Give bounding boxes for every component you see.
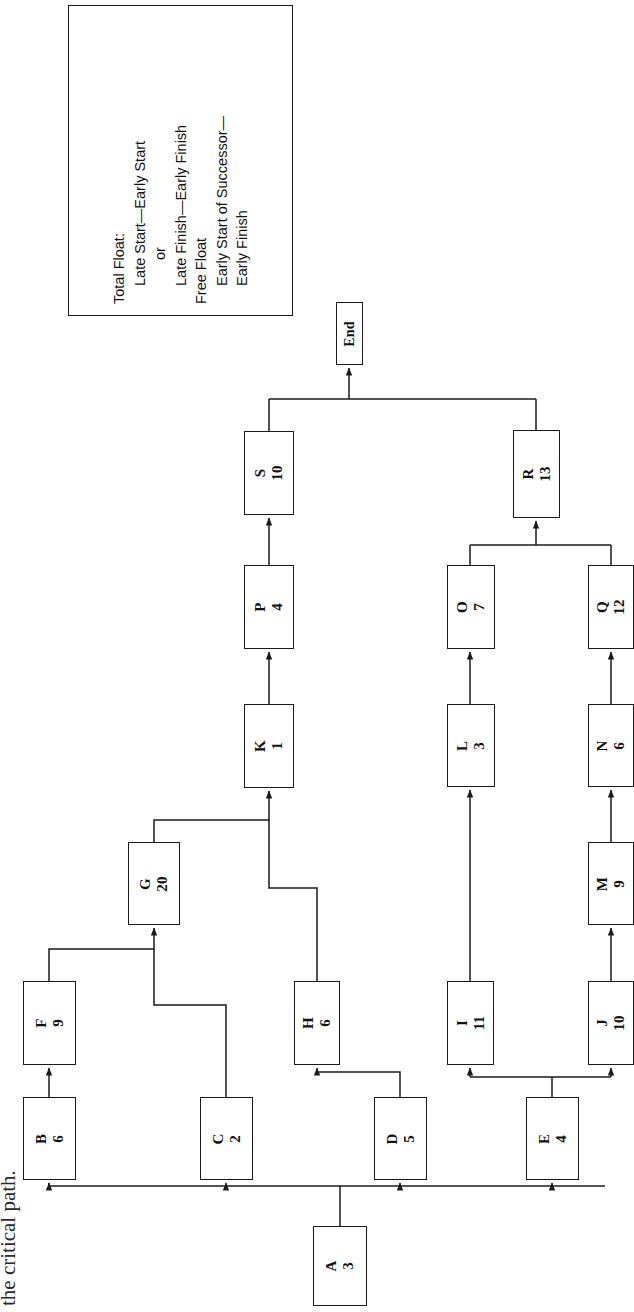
node-e-id: E [536,1133,553,1143]
node-j-inner: J10 [594,1015,628,1030]
node-r-inner: R13 [520,466,554,481]
legend-total-float-formula-2: Late Finish—Early Finish [170,18,191,304]
node-b-id: B [33,1133,50,1143]
page-caption: the critical path. [0,1170,21,1306]
node-i-inner: I11 [454,1016,488,1031]
node-m-duration: 9 [611,880,628,888]
node-q-duration: 12 [611,599,628,614]
node-s[interactable]: S10 [244,431,294,515]
node-c-inner: C2 [210,1133,244,1144]
node-n[interactable]: N6 [588,704,634,787]
node-i-id: I [454,1020,471,1026]
node-h-inner: H6 [300,1017,334,1029]
node-p[interactable]: P4 [244,565,294,649]
edge-g-to-k [154,791,269,842]
legend-text: Total Float: Late Start—Early Start or L… [108,18,252,304]
node-a-inner: A3 [323,1260,357,1271]
edge-c-to-g [154,949,226,1097]
node-end[interactable]: End [336,302,363,365]
node-n-id: N [594,740,611,751]
node-j[interactable]: J10 [588,981,634,1065]
node-j-id: J [594,1019,611,1027]
page-caption-text: the critical path. [0,1170,20,1306]
legend-free-float-label: Free Float [191,18,212,304]
node-k[interactable]: K1 [244,704,294,788]
node-g-inner: G20 [137,876,171,891]
node-b[interactable]: B6 [23,1097,76,1180]
edge-f-to-g [49,928,154,981]
node-m[interactable]: M9 [588,842,634,925]
node-end-inner: End [342,321,358,347]
node-d-inner: D5 [384,1133,418,1144]
node-s-duration: 10 [269,465,286,480]
node-c[interactable]: C2 [200,1097,253,1180]
node-a[interactable]: A3 [313,1226,367,1306]
node-f-id: F [33,1018,50,1027]
edge-h-to-k [269,820,317,981]
node-e-duration: 4 [553,1135,570,1143]
node-l-inner: L3 [454,740,488,750]
legend-total-float-formula-1: Late Start—Early Start [129,18,150,304]
node-l[interactable]: L3 [447,704,495,787]
node-f-duration: 9 [50,1019,67,1027]
network-diagram-canvas: Total Float: Late Start—Early Start or L… [0,0,634,1312]
node-e[interactable]: E4 [526,1097,579,1180]
node-g-id: G [137,878,154,890]
node-n-inner: N6 [594,740,628,751]
legend-free-float-formula-2: Early Finish [232,18,253,304]
node-g[interactable]: G20 [128,842,180,925]
node-d-id: D [384,1133,401,1144]
node-q-id: Q [594,601,611,613]
node-h-id: H [300,1017,317,1029]
node-i[interactable]: I11 [447,981,494,1065]
node-k-duration: 1 [269,742,286,750]
node-s-id: S [252,469,269,478]
node-q-inner: Q12 [594,599,628,614]
legend-total-float-label: Total Float: [108,18,129,304]
node-d[interactable]: D5 [374,1097,427,1180]
node-o-id: O [454,601,471,613]
node-r[interactable]: R13 [513,430,560,518]
node-h-duration: 6 [317,1019,334,1027]
node-o-duration: 7 [471,603,488,611]
node-q[interactable]: Q12 [588,565,634,649]
node-o[interactable]: O7 [447,565,495,649]
node-b-duration: 6 [50,1135,67,1143]
node-p-duration: 4 [269,603,286,611]
node-p-inner: P4 [252,602,286,611]
node-f[interactable]: F9 [23,981,76,1065]
node-a-duration: 3 [340,1262,357,1270]
node-s-inner: S10 [252,465,286,480]
node-p-id: P [252,602,269,611]
node-n-duration: 6 [611,742,628,750]
node-h[interactable]: H6 [294,981,340,1065]
node-k-inner: K1 [252,740,286,752]
node-m-id: M [594,876,611,890]
node-k-id: K [252,740,269,752]
node-c-id: C [210,1133,227,1144]
node-l-id: L [454,740,471,750]
node-r-id: R [520,468,537,479]
node-e-inner: E4 [536,1133,570,1143]
node-j-duration: 10 [611,1015,628,1030]
node-c-duration: 2 [227,1135,244,1143]
node-end-label: End [342,321,358,347]
node-g-duration: 20 [154,876,171,891]
legend-free-float-formula-1: Early Start of Successor— [211,18,232,304]
node-l-duration: 3 [471,742,488,750]
node-m-inner: M9 [594,876,628,890]
node-f-inner: F9 [33,1018,67,1027]
node-b-inner: B6 [33,1133,67,1143]
node-o-inner: O7 [454,601,488,613]
node-i-duration: 11 [471,1016,488,1031]
legend-box: Total Float: Late Start—Early Start or L… [68,5,293,316]
node-a-id: A [323,1260,340,1271]
edge-d-to-h [317,1068,400,1097]
node-r-duration: 13 [537,466,554,481]
legend-or: or [150,18,171,304]
node-d-duration: 5 [401,1135,418,1143]
